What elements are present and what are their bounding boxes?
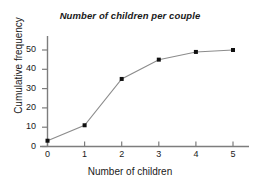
x-axis-label: Number of children bbox=[0, 166, 260, 177]
x-axis-tick-label: 5 bbox=[227, 149, 239, 159]
data-point-markers bbox=[46, 48, 236, 143]
y-axis-tick-label: 0 bbox=[20, 141, 36, 151]
data-point-marker bbox=[120, 77, 124, 81]
data-point-marker bbox=[157, 58, 161, 62]
data-point-marker bbox=[83, 123, 87, 127]
x-axis-tick-label: 4 bbox=[190, 149, 202, 159]
data-point-marker bbox=[46, 139, 50, 143]
data-line bbox=[48, 50, 234, 141]
x-axis-tick-label: 3 bbox=[153, 149, 165, 159]
x-axis-tick-label: 0 bbox=[42, 149, 54, 159]
chart-figure: Number of children per couple 0102030405… bbox=[0, 0, 260, 186]
data-point-marker bbox=[231, 48, 235, 52]
y-axis-label: Cumulative frequency bbox=[13, 11, 24, 121]
plot-area bbox=[0, 0, 260, 186]
x-axis-tick-label: 1 bbox=[79, 149, 91, 159]
x-axis-ticks bbox=[48, 142, 234, 147]
data-point-marker bbox=[194, 50, 198, 54]
y-axis-ticks bbox=[42, 50, 48, 147]
x-axis-tick-label: 2 bbox=[116, 149, 128, 159]
y-axis-tick-label: 10 bbox=[20, 121, 36, 131]
